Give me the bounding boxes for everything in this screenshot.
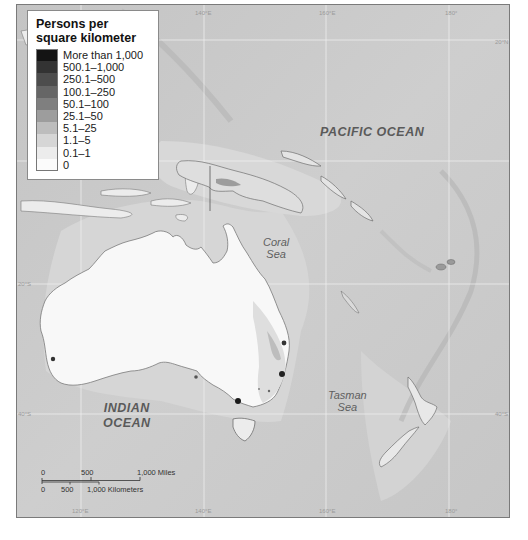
coral-sea-label-line1: Coral <box>263 236 289 248</box>
legend-item: 0.1–1 <box>36 147 150 159</box>
legend-label: 100.1–250 <box>63 86 115 98</box>
lat-label-40s-left: 40°S <box>18 411 31 417</box>
legend-label: 1.1–5 <box>63 134 91 146</box>
legend-item: 250.1–500 <box>36 73 150 85</box>
legend-swatch <box>36 49 58 61</box>
coral-sea-label: Coral Sea <box>263 236 289 260</box>
legend-label: 0.1–1 <box>63 147 91 159</box>
lon-label-top-180: 180° <box>445 10 457 16</box>
legend-swatch <box>36 147 58 159</box>
lon-label-top-140e: 140°E <box>195 10 211 16</box>
legend-label: 500.1–1,000 <box>63 61 124 73</box>
legend-swatch <box>36 159 58 171</box>
legend-item: 0 <box>36 159 150 171</box>
indian-ocean-label: INDIAN OCEAN <box>103 401 151 431</box>
scale-km-mid: 500 <box>61 485 74 494</box>
lon-label-bottom-160e: 160°E <box>319 508 335 514</box>
indian-ocean-label-line1: INDIAN <box>103 401 151 416</box>
legend-label: 250.1–500 <box>63 73 115 85</box>
tasman-sea-label-line2: Sea <box>328 401 367 413</box>
legend-rows: More than 1,000 500.1–1,000 250.1–500 10… <box>36 49 150 171</box>
legend-label: More than 1,000 <box>63 49 143 61</box>
legend-label: 50.1–100 <box>63 98 109 110</box>
pacific-ocean-label: PACIFIC OCEAN <box>320 125 424 139</box>
legend-item: 5.1–25 <box>36 122 150 134</box>
legend-swatch <box>36 73 58 85</box>
lon-label-bottom-180: 180° <box>445 508 457 514</box>
scale-miles-zero: 0 <box>41 468 45 477</box>
lat-label-20n-right: 20°N <box>495 39 508 45</box>
scale-miles-end: 1,000 Miles <box>137 468 175 477</box>
legend-title: Persons per square kilometer <box>36 17 150 45</box>
legend: Persons per square kilometer More than 1… <box>27 10 159 180</box>
indian-ocean-label-line2: OCEAN <box>103 416 151 431</box>
legend-swatch <box>36 86 58 98</box>
legend-swatch <box>36 98 58 110</box>
legend-label: 5.1–25 <box>63 122 97 134</box>
legend-item: 1.1–5 <box>36 134 150 146</box>
legend-swatch <box>36 61 58 73</box>
coral-sea-label-line2: Sea <box>263 248 289 260</box>
legend-item: 50.1–100 <box>36 98 150 110</box>
legend-label: 25.1–50 <box>63 110 103 122</box>
lat-label-20s-left: 20°S <box>18 281 31 287</box>
tasman-sea-label-line1: Tasman <box>328 389 367 401</box>
scale-km-zero: 0 <box>41 485 45 494</box>
scale-bar: 0 500 1,000 Miles 0 500 1,000 Kilometers <box>37 465 197 495</box>
legend-title-line1: Persons per <box>36 17 150 31</box>
legend-item: More than 1,000 <box>36 49 150 61</box>
lon-label-bottom-120e: 120°E <box>72 508 88 514</box>
legend-label: 0 <box>63 159 69 171</box>
scale-bar-lines <box>41 477 141 485</box>
legend-title-line2: square kilometer <box>36 31 150 45</box>
tasman-sea-label: Tasman Sea <box>328 389 367 413</box>
scale-km-end: 1,000 Kilometers <box>87 485 143 494</box>
lon-label-top-160e: 160°E <box>319 10 335 16</box>
legend-item: 100.1–250 <box>36 86 150 98</box>
lat-label-40s-right: 40°S <box>495 411 508 417</box>
legend-swatch <box>36 122 58 134</box>
lon-label-bottom-140e: 140°E <box>195 508 211 514</box>
legend-swatch <box>36 134 58 146</box>
legend-item: 500.1–1,000 <box>36 61 150 73</box>
legend-item: 25.1–50 <box>36 110 150 122</box>
legend-swatch <box>36 110 58 122</box>
scale-miles-mid: 500 <box>81 468 94 477</box>
